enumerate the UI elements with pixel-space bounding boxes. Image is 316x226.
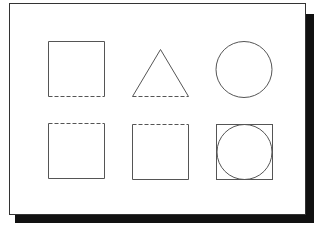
top-left-square — [49, 42, 105, 97]
figure-stage — [0, 0, 316, 226]
bottom-middle-square — [133, 125, 189, 180]
top-right-circle — [216, 42, 272, 98]
top-middle-triangle — [133, 50, 189, 97]
bottom-right-square-with-circle — [217, 125, 273, 180]
shapes-canvas — [0, 0, 316, 226]
bottom-left-square — [49, 124, 105, 179]
